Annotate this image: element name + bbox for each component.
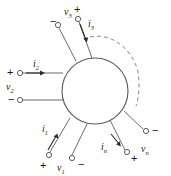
port-n-plus-terminal <box>124 149 129 154</box>
port-3-plus-terminal <box>75 16 80 21</box>
port-n-minus-lead <box>124 111 143 129</box>
port-1-current-label: i1 <box>42 124 48 137</box>
port-1-plus-lead <box>50 118 70 152</box>
port-1-minus-terminal <box>69 155 74 160</box>
port-n-minus-terminal <box>143 128 148 133</box>
port-2-plus-terminal <box>17 70 22 75</box>
port-3-current-label: i3 <box>88 19 94 32</box>
port-3-minus-sign: − <box>50 16 56 27</box>
dashed-ellipsis-arc <box>90 36 139 106</box>
port-3-plus-sign: + <box>74 4 80 15</box>
port-3-minus-lead <box>59 28 76 61</box>
port-2-current-label: i2 <box>33 59 39 72</box>
port-1-minus-lead <box>72 124 87 155</box>
port-3-current-arrow <box>80 24 88 43</box>
port-n-plus-sign: + <box>131 153 137 164</box>
n-port-network-figure: − v3 + i3 + v2 − i2 i1 + v1 − in + vn − <box>0 0 171 176</box>
port-n-current-arrow <box>111 134 121 147</box>
port-1-minus-sign: − <box>78 159 84 170</box>
port-1-voltage-label: v1 <box>57 163 65 176</box>
port-2-plus-sign: + <box>7 67 13 78</box>
port-1-plus-sign: + <box>40 160 46 171</box>
port-1-plus-terminal <box>46 152 51 157</box>
port-n-current-label: in <box>101 142 107 155</box>
network-body-circle <box>62 58 128 124</box>
port-2-minus-sign: − <box>8 94 14 105</box>
port-n-minus-sign: − <box>152 125 158 136</box>
port-n-voltage-label: vn <box>141 144 149 157</box>
port-3-voltage-label: v3 <box>64 7 72 20</box>
port-2-minus-terminal <box>17 97 22 102</box>
